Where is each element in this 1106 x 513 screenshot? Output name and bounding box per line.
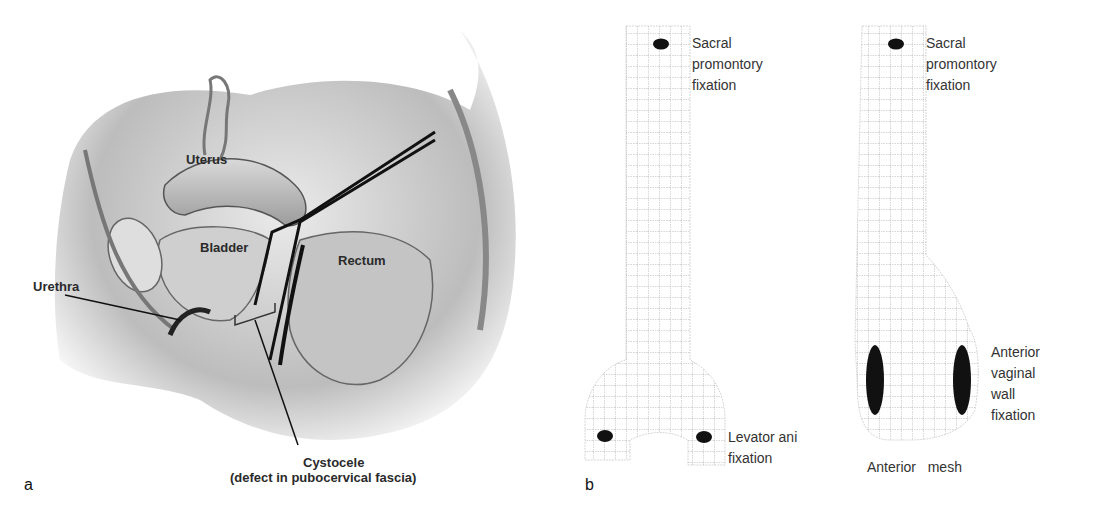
label-anterior-vaginal-wall: Anterior vaginal wall fixation [991,342,1040,426]
label-levator-ani: Levator ani fixation [728,427,797,469]
label-line: vaginal [991,363,1040,384]
label-sacral-promontory-right: Sacral promontory fixation [926,33,997,96]
label-line: fixation [991,405,1040,426]
label-cystocele-defect: (defect in pubocervical fascia) [230,470,416,485]
fixation-point-vaginal-left [866,345,884,415]
panel-letter-b: b [585,476,594,494]
label-rectum: Rectum [338,253,386,268]
fixation-point-vaginal-right [953,345,971,415]
label-line: promontory [692,54,763,75]
label-line: Anterior [991,342,1040,363]
fixation-point-sacral-left [653,39,669,50]
fixation-point-sacral-right [888,39,904,50]
label-line: wall [991,384,1040,405]
label-line: fixation [728,448,797,469]
mesh-schematics-drawing [560,0,1106,513]
label-line: Sacral [692,33,763,54]
label-line: fixation [692,75,763,96]
label-bladder: Bladder [200,240,248,255]
panel-b-mesh-schematics: Sacral promontory fixation Levator ani f… [560,0,1106,513]
label-line: Levator ani [728,427,797,448]
label-line: promontory [926,54,997,75]
fixation-point-levator-right [696,431,712,443]
label-line: Sacral [926,33,997,54]
label-uterus: Uterus [186,152,227,167]
label-sacral-promontory-left: Sacral promontory fixation [692,33,763,96]
label-urethra: Urethra [33,279,79,294]
label-cystocele: Cystocele [303,455,364,470]
label-line: fixation [926,75,997,96]
caption-anterior-mesh: Anterior mesh [867,457,962,478]
fixation-point-levator-left [597,430,613,442]
pelvic-anatomy-drawing [0,0,560,513]
panel-a-anatomy-illustration: Uterus Bladder Rectum Urethra Cystocele … [0,0,560,513]
panel-letter-a: a [24,476,33,494]
